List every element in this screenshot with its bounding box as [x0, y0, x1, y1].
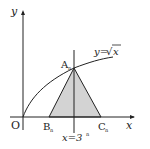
line-label-sup: n	[86, 131, 90, 137]
triangle-abc	[49, 68, 101, 117]
point-a-sub: n	[68, 65, 72, 71]
origin-label: O	[11, 119, 20, 132]
point-b-sub: n	[50, 127, 54, 133]
x-axis-label: x	[126, 119, 133, 132]
curve-label-sqrt-sign: √	[106, 46, 113, 57]
y-axis-arrow-icon	[21, 10, 25, 15]
y-axis-label: y	[10, 5, 18, 18]
diagram: y x O y= √ x A n B n C n x=3 n	[0, 0, 150, 149]
curve-label-radicand: x	[113, 46, 119, 57]
line-label: x=3	[62, 132, 82, 143]
point-c-sub: n	[105, 127, 109, 133]
